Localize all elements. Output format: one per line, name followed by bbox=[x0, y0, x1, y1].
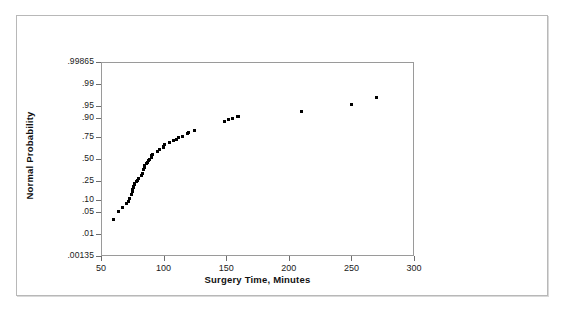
data-point bbox=[350, 103, 353, 106]
y-tick-label: .00135 bbox=[67, 250, 94, 260]
data-point bbox=[300, 110, 303, 113]
y-tick-label: .95 bbox=[82, 100, 94, 110]
data-point bbox=[168, 141, 171, 144]
data-point bbox=[187, 131, 190, 134]
y-tick-mark bbox=[96, 106, 101, 107]
y-tick-mark bbox=[96, 200, 101, 201]
x-tick-mark bbox=[351, 256, 352, 261]
data-point bbox=[231, 117, 234, 120]
data-point bbox=[128, 197, 131, 200]
x-tick-label: 200 bbox=[269, 263, 309, 273]
y-tick-mark bbox=[96, 159, 101, 160]
x-tick-label: 150 bbox=[206, 263, 246, 273]
x-tick-mark bbox=[289, 256, 290, 261]
y-tick-label: .99 bbox=[82, 78, 94, 88]
data-point bbox=[130, 193, 133, 196]
x-tick-label: 300 bbox=[394, 263, 434, 273]
x-tick-label: 250 bbox=[331, 263, 371, 273]
x-tick-mark bbox=[226, 256, 227, 261]
data-point bbox=[223, 120, 226, 123]
data-point bbox=[237, 115, 240, 118]
x-tick-label: 100 bbox=[144, 263, 184, 273]
data-point bbox=[140, 174, 143, 177]
data-point bbox=[141, 172, 144, 175]
y-tick-label: .75 bbox=[82, 131, 94, 141]
y-tick-mark bbox=[96, 118, 101, 119]
x-tick-label: 50 bbox=[81, 263, 121, 273]
data-point bbox=[375, 96, 378, 99]
y-tick-mark bbox=[96, 181, 101, 182]
data-point bbox=[151, 153, 154, 156]
data-point bbox=[227, 118, 230, 121]
x-tick-mark bbox=[414, 256, 415, 261]
y-tick-label: .25 bbox=[82, 175, 94, 185]
x-axis-title: Surgery Time, Minutes bbox=[101, 274, 414, 285]
data-point bbox=[163, 143, 166, 146]
y-tick-label: .90 bbox=[82, 112, 94, 122]
data-point bbox=[158, 148, 161, 151]
x-tick-mark bbox=[164, 256, 165, 261]
y-tick-mark bbox=[96, 212, 101, 213]
y-tick-label: .99865 bbox=[67, 56, 94, 66]
data-point bbox=[121, 206, 124, 209]
y-tick-label: .05 bbox=[82, 206, 94, 216]
data-point bbox=[136, 179, 139, 182]
x-tick-mark bbox=[101, 256, 102, 261]
data-point bbox=[177, 136, 180, 139]
normal-probability-plot: .00135.01.05.10.25.50.75.90.95.99.99865 … bbox=[0, 0, 567, 315]
y-tick-label: .10 bbox=[82, 194, 94, 204]
data-point bbox=[117, 210, 120, 213]
y-tick-label: .01 bbox=[82, 228, 94, 238]
y-tick-label: .50 bbox=[82, 153, 94, 163]
y-tick-mark bbox=[96, 62, 101, 63]
y-tick-mark bbox=[96, 234, 101, 235]
data-point bbox=[127, 200, 130, 203]
data-point bbox=[193, 129, 196, 132]
data-point bbox=[112, 218, 115, 221]
y-axis-title: Normal Probability bbox=[24, 91, 35, 221]
y-tick-mark bbox=[96, 137, 101, 138]
y-tick-mark bbox=[96, 84, 101, 85]
data-point bbox=[181, 135, 184, 138]
